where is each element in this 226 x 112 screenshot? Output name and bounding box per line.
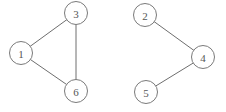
graph-node-label-1: 1 (18, 48, 24, 60)
graph-node-5[interactable]: 5 (135, 81, 158, 104)
graph-edge-2-4 (154, 22, 193, 51)
graph-node-6[interactable]: 6 (65, 80, 88, 103)
graph-edge-5-4 (156, 63, 193, 86)
graph-node-label-2: 2 (142, 10, 148, 22)
graph-node-3[interactable]: 3 (65, 2, 88, 25)
graph-edge-1-6 (30, 60, 66, 85)
graph-node-label-3: 3 (73, 8, 79, 20)
graph-node-4[interactable]: 4 (192, 46, 215, 69)
graph-figure: 136245 (0, 0, 226, 112)
graph-node-label-6: 6 (73, 86, 79, 98)
node-layer: 136245 (10, 2, 215, 104)
graph-canvas: 136245 (0, 0, 226, 112)
graph-node-1[interactable]: 1 (10, 42, 33, 65)
graph-node-2[interactable]: 2 (134, 4, 157, 27)
graph-node-label-4: 4 (200, 52, 206, 64)
edge-layer (30, 20, 193, 86)
graph-node-label-5: 5 (143, 87, 149, 99)
graph-edge-1-3 (30, 20, 66, 46)
